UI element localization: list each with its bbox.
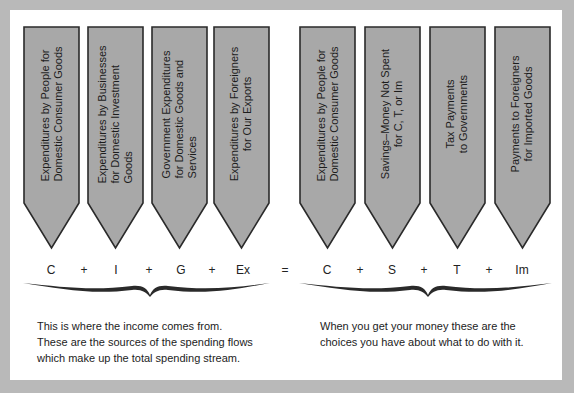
arrow-imports: Payments to Foreigners for Imported Good… <box>494 26 551 250</box>
income-sources-caption: This is where the income comes from. The… <box>37 318 253 366</box>
arrow-label: Government Expenditures for Domestic Goo… <box>160 50 199 178</box>
arrow-label: Tax Payments to Governments <box>445 75 471 153</box>
curly-brace-left <box>22 282 272 302</box>
curly-brace-right <box>298 282 554 302</box>
symbol-im: Im <box>515 263 528 277</box>
equals-sign: = <box>281 263 288 277</box>
arrow-label: Payments to Foreigners for Imported Good… <box>510 56 536 173</box>
arrow-consumer-spending: Expenditures by People for Domestic Cons… <box>299 26 356 250</box>
arrow-tax-payments: Tax Payments to Governments <box>429 26 486 250</box>
arrow-label: Savings–Money Not Spent for C, T, or Im <box>380 49 406 179</box>
symbol-g: G <box>176 263 185 277</box>
arrow-label: Expenditures by People for Domestic Cons… <box>315 46 341 181</box>
symbol-c: C <box>47 263 56 277</box>
arrow-consumer-expenditures: Expenditures by People for Domestic Cons… <box>23 26 80 250</box>
symbol-s: S <box>388 263 396 277</box>
arrow-business-investment: Expenditures by Businesses for Domestic … <box>87 26 144 250</box>
plus-sign: + <box>356 263 363 277</box>
symbol-c: C <box>323 263 332 277</box>
plus-sign: + <box>145 263 152 277</box>
arrow-exports: Expenditures by Foreigners for Our Expor… <box>213 26 270 250</box>
arrow-savings: Savings–Money Not Spent for C, T, or Im <box>364 26 421 250</box>
plus-sign: + <box>80 263 87 277</box>
arrow-label: Expenditures by Foreigners for Our Expor… <box>229 47 255 182</box>
plus-sign: + <box>208 263 215 277</box>
arrow-government-expenditures: Government Expenditures for Domestic Goo… <box>151 26 208 250</box>
symbol-ex: Ex <box>236 263 250 277</box>
plus-sign: + <box>420 263 427 277</box>
arrow-label: Expenditures by People for Domestic Cons… <box>39 46 65 181</box>
symbol-i: I <box>114 263 117 277</box>
arrow-label: Expenditures by Businesses for Domestic … <box>96 45 135 183</box>
plus-sign: + <box>485 263 492 277</box>
income-uses-caption: When you get your money these are the ch… <box>320 318 524 350</box>
symbol-t: T <box>453 263 460 277</box>
